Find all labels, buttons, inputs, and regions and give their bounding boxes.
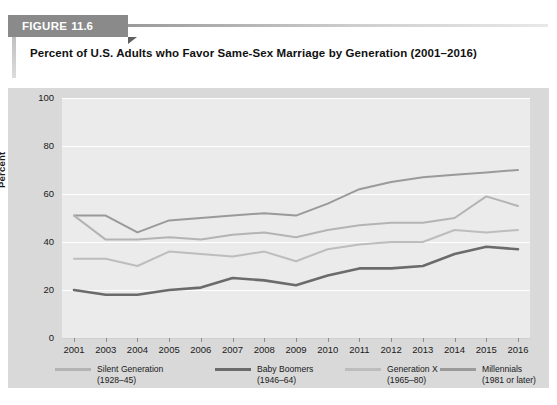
- x-tick-mark: [359, 338, 360, 342]
- x-tick-label: 2004: [120, 344, 154, 355]
- x-tick-mark: [106, 338, 107, 342]
- y-tick-label: 80: [20, 140, 54, 151]
- legend-item-generation-x[interactable]: Generation X(1965–80): [345, 364, 438, 385]
- x-tick-mark: [296, 338, 297, 342]
- series-line-millennials: [74, 170, 518, 232]
- x-tick-mark: [201, 338, 202, 342]
- x-tick-label: 2008: [247, 344, 281, 355]
- x-tick-mark: [137, 338, 138, 342]
- legend-label: Baby Boomers: [257, 364, 313, 375]
- legend-label: Generation X: [387, 364, 438, 375]
- legend-sublabel: (1965–80): [387, 375, 438, 386]
- legend-swatch-icon: [345, 368, 381, 371]
- x-tick-mark: [74, 338, 75, 342]
- legend-text: Generation X(1965–80): [387, 364, 438, 385]
- x-tick-label: 2015: [469, 344, 503, 355]
- series-lines: [62, 98, 530, 338]
- x-tick-mark: [455, 338, 456, 342]
- legend-swatch-icon: [215, 368, 251, 371]
- x-tick-mark: [169, 338, 170, 342]
- x-tick-mark: [423, 338, 424, 342]
- legend-sublabel: (1928–45): [97, 375, 163, 386]
- legend-sublabel: (1981 or later): [482, 375, 536, 386]
- legend-label: Millennials: [482, 364, 536, 375]
- legend-text: Silent Generation(1928–45): [97, 364, 163, 385]
- x-tick-mark: [328, 338, 329, 342]
- series-line-silent-generation: [74, 196, 518, 239]
- legend-swatch-icon: [440, 368, 476, 371]
- source-note: [10, 396, 430, 405]
- legend-item-millennials[interactable]: Millennials(1981 or later): [440, 364, 536, 385]
- figure-banner: FIGURE 11.6: [8, 15, 128, 37]
- banner-rule: [128, 24, 548, 27]
- x-tick-mark: [233, 338, 234, 342]
- x-tick-mark: [518, 338, 519, 342]
- legend-label: Silent Generation: [97, 364, 163, 375]
- x-tick-label: 2010: [311, 344, 345, 355]
- x-tick-label: 2006: [184, 344, 218, 355]
- x-tick-label: 2012: [374, 344, 408, 355]
- chart-legend: Silent Generation(1928–45)Baby Boomers(1…: [8, 364, 549, 392]
- series-line-generation-x: [74, 230, 518, 266]
- y-tick-label: 0: [20, 332, 54, 343]
- x-tick-label: 2014: [438, 344, 472, 355]
- page-title: Percent of U.S. Adults who Favor Same-Se…: [30, 47, 477, 59]
- x-tick-label: 2001: [57, 344, 91, 355]
- x-tick-label: 2005: [152, 344, 186, 355]
- y-tick-label: 40: [20, 236, 54, 247]
- plot-area: [62, 98, 530, 338]
- x-tick-label: 2016: [501, 344, 535, 355]
- legend-swatch-icon: [55, 368, 91, 371]
- y-tick-label: 100: [20, 92, 54, 103]
- figure-number: 11.6: [71, 20, 93, 32]
- banner-fold-icon: [128, 37, 137, 44]
- x-tick-label: 2003: [89, 344, 123, 355]
- x-tick-mark: [391, 338, 392, 342]
- legend-text: Millennials(1981 or later): [482, 364, 536, 385]
- series-line-baby-boomers: [74, 247, 518, 295]
- x-tick-mark: [486, 338, 487, 342]
- y-axis-label: Percent: [0, 152, 7, 188]
- x-tick-label: 2013: [406, 344, 440, 355]
- legend-sublabel: (1946–64): [257, 375, 313, 386]
- legend-text: Baby Boomers(1946–64): [257, 364, 313, 385]
- figure-label: FIGURE: [22, 20, 67, 32]
- x-tick-mark: [264, 338, 265, 342]
- legend-item-silent-generation[interactable]: Silent Generation(1928–45): [55, 364, 163, 385]
- x-tick-label: 2009: [279, 344, 313, 355]
- x-tick-label: 2011: [342, 344, 376, 355]
- y-tick-label: 20: [20, 284, 54, 295]
- y-tick-label: 60: [20, 188, 54, 199]
- legend-item-baby-boomers[interactable]: Baby Boomers(1946–64): [215, 364, 313, 385]
- x-tick-label: 2007: [216, 344, 250, 355]
